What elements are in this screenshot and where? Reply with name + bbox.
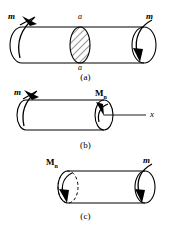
internal-moment-label-b: Mn <box>95 89 107 100</box>
torque-label-left-a: m <box>8 12 15 21</box>
internal-moment-arrow-b <box>96 102 108 122</box>
torque-label-left-b: m <box>14 88 21 97</box>
torsion-figure: m m a a (a) <box>0 0 171 225</box>
internal-moment-symbol-b: M <box>95 88 104 98</box>
torque-arrow-left-b <box>23 90 39 126</box>
internal-moment-subscript-b: n <box>104 94 107 100</box>
internal-moment-subscript-c: n <box>55 163 58 169</box>
section-label-bottom-a: a <box>78 64 82 72</box>
torque-label-right-a: m <box>146 12 153 21</box>
internal-moment-symbol-c: M <box>46 157 55 167</box>
caption-b: (b) <box>0 140 171 150</box>
caption-a: (a) <box>0 72 171 82</box>
caption-c: (c) <box>0 211 171 221</box>
torque-arrow-left-a <box>19 16 37 58</box>
torque-arrow-right-a <box>133 20 152 62</box>
x-axis-label-b: x <box>150 110 154 119</box>
cross-section-hatch-a <box>70 27 90 63</box>
panel-b: m Mn x (b) <box>0 86 171 153</box>
section-label-top-a: a <box>78 13 82 21</box>
internal-moment-label-c: Mn <box>46 158 58 169</box>
torque-label-right-c: m <box>143 156 150 165</box>
panel-a: m m a a (a) <box>0 0 171 86</box>
panel-c: Mn m (c) <box>0 153 171 225</box>
